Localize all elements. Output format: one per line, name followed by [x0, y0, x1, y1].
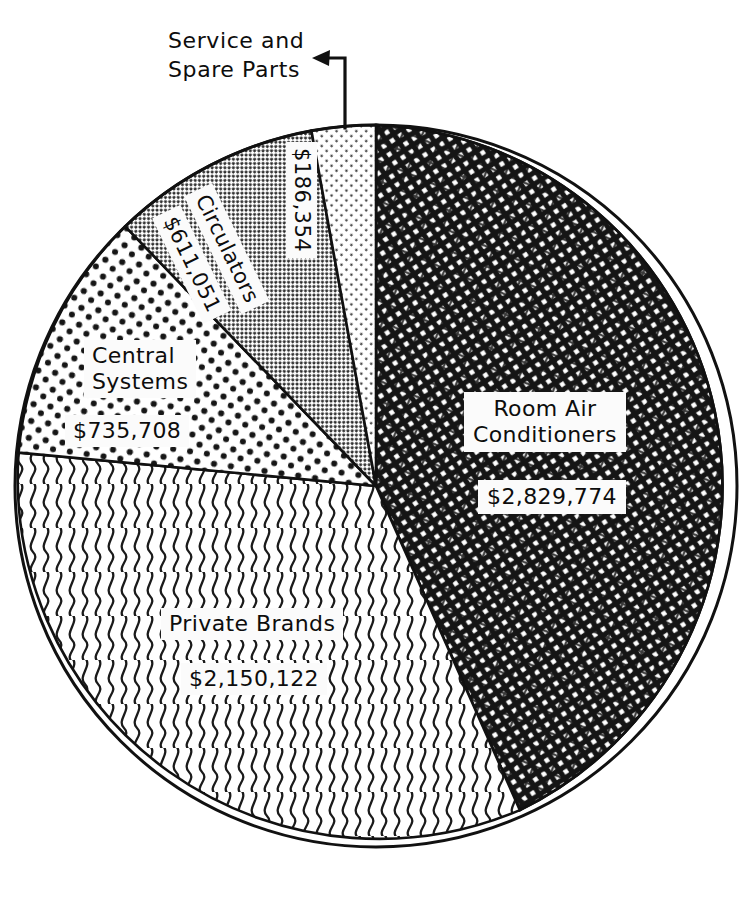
- slice-value-private-brands: $2,150,122: [181, 663, 327, 695]
- callout-leader-line: [312, 50, 345, 128]
- callout-label-line1: Service and: [168, 26, 304, 55]
- slice-label-room-air-conditioners-line2: Conditioners: [473, 422, 617, 448]
- slice-label-room-air-conditioners: Room Air Conditioners: [464, 392, 626, 452]
- slice-label-central-systems-line2: Systems: [92, 369, 188, 395]
- slice-label-room-air-conditioners-line1: Room Air: [473, 396, 617, 422]
- callout-label-line2: Spare Parts: [168, 55, 304, 84]
- slice-label-private-brands: Private Brands: [161, 608, 343, 640]
- callout-label: Service and Spare Parts: [168, 26, 304, 84]
- pie-chart-figure: Service and Spare Parts $186,354 Circula…: [0, 0, 739, 899]
- pie-chart-canvas: [0, 0, 739, 899]
- slice-label-central-systems: Central Systems: [84, 340, 196, 398]
- slice-value-service-and-spare-parts: $186,354: [286, 142, 317, 258]
- arrow-left-icon: [312, 50, 330, 66]
- slice-value-room-air-conditioners: $2,829,774: [478, 480, 626, 514]
- slice-label-central-systems-line1: Central: [92, 343, 188, 369]
- slice-value-central-systems: $735,708: [65, 415, 189, 447]
